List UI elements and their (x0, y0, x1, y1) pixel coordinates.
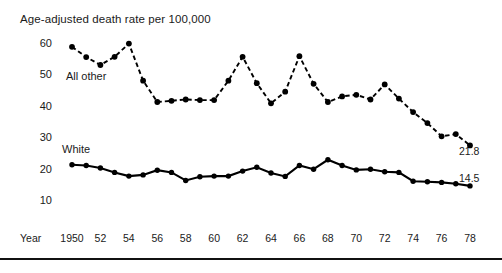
data-point (297, 53, 303, 59)
data-point (425, 179, 430, 184)
data-point (268, 100, 274, 106)
data-point (396, 170, 401, 175)
data-point (282, 89, 288, 95)
data-point (453, 131, 459, 137)
data-point (69, 44, 75, 50)
data-point (254, 80, 260, 86)
data-point (368, 167, 373, 172)
data-point (112, 54, 118, 60)
data-point (311, 167, 316, 172)
data-point (382, 82, 388, 88)
data-point (98, 62, 104, 68)
bottom-rule (0, 258, 502, 260)
data-point (439, 180, 444, 185)
data-point (112, 170, 117, 175)
data-point (169, 170, 174, 175)
data-point (410, 179, 415, 184)
data-point (197, 174, 202, 179)
data-point (211, 173, 216, 178)
data-point (453, 181, 458, 186)
data-point (382, 169, 387, 174)
data-point (325, 99, 331, 105)
data-point (154, 99, 160, 105)
data-point (283, 174, 288, 179)
data-point (197, 97, 203, 103)
data-point (126, 173, 131, 178)
plot-area (0, 0, 502, 273)
data-point (425, 120, 431, 126)
data-point (467, 183, 472, 188)
data-point (140, 172, 145, 177)
data-point (311, 81, 317, 87)
data-point (169, 98, 175, 104)
data-point (211, 97, 217, 103)
series-line-all-other (72, 44, 470, 146)
chart-figure: Age-adjusted death rate per 100,000 60 5… (0, 0, 502, 273)
data-point (69, 162, 74, 167)
data-point (183, 178, 188, 183)
data-point (396, 96, 402, 102)
data-point (240, 54, 246, 60)
data-point (98, 165, 103, 170)
data-point (354, 167, 359, 172)
data-point (226, 78, 232, 84)
data-point (410, 109, 416, 115)
data-point (339, 163, 344, 168)
data-point (439, 133, 445, 139)
data-point (467, 143, 473, 149)
data-point (83, 54, 89, 60)
data-point (339, 94, 345, 100)
data-point (140, 78, 146, 84)
data-point (240, 168, 245, 173)
data-point (297, 163, 302, 168)
data-point (226, 173, 231, 178)
data-point (183, 97, 189, 103)
data-point (368, 97, 374, 103)
data-point (353, 92, 359, 98)
data-point (268, 170, 273, 175)
data-point (155, 168, 160, 173)
data-point (254, 165, 259, 170)
data-point (126, 41, 132, 47)
data-point (84, 163, 89, 168)
data-point (325, 157, 330, 162)
